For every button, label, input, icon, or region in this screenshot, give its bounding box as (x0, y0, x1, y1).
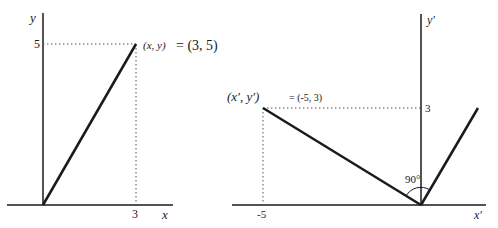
right-point-label-eq: = (-5, 3) (289, 92, 322, 104)
left-vector (43, 44, 136, 205)
left-point-label-vars: (x, y) (143, 39, 166, 52)
original-vector (421, 108, 478, 205)
rotated-vector (263, 108, 421, 205)
left-y-tick-label: 5 (34, 37, 40, 51)
right-x-axis-label: x′ (473, 208, 482, 222)
right-y-axis-label: y′ (426, 13, 435, 27)
left-x-axis-label: x (161, 207, 168, 222)
left-x-tick-label: 3 (132, 207, 138, 221)
left-point-label-eq: = (3, 5) (176, 38, 218, 54)
right-point-label-vars: (x′, y′) (227, 89, 259, 104)
left-diagram: y 5 3 x (x, y) = (3, 5) (7, 10, 218, 222)
right-x-tick-label: -5 (257, 208, 267, 220)
left-y-axis-label: y (28, 10, 36, 25)
right-diagram: y′ 3 -5 x′ (x′, y′) = (-5, 3) 90° (227, 13, 486, 222)
right-angle-label: 90° (405, 173, 420, 185)
right-y-tick-label: 3 (425, 102, 431, 114)
rotation-diagram: y 5 3 x (x, y) = (3, 5) y′ 3 -5 x′ (x′, … (0, 0, 498, 228)
